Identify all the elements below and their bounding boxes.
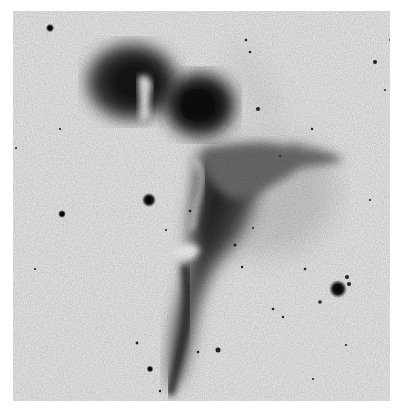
star (216, 348, 221, 353)
star (256, 107, 260, 111)
star (46, 24, 54, 32)
star (279, 155, 281, 157)
star (197, 351, 200, 354)
star (312, 378, 314, 380)
nebula-photograph: Nebula negative photograph (13, 11, 390, 401)
star (234, 244, 237, 247)
star (159, 390, 161, 392)
star (345, 344, 347, 346)
star (282, 316, 284, 318)
star (252, 227, 254, 229)
star (249, 51, 252, 54)
star (136, 342, 139, 345)
star (373, 60, 377, 64)
star (147, 366, 154, 373)
star (329, 280, 347, 298)
film-grain (13, 11, 390, 401)
star (241, 266, 243, 268)
star (15, 147, 17, 149)
star (58, 210, 66, 218)
star (34, 268, 36, 270)
star (272, 308, 275, 311)
star (245, 39, 248, 42)
star (304, 268, 307, 271)
star (318, 300, 322, 304)
star (142, 193, 156, 207)
star (189, 210, 192, 213)
star (165, 229, 167, 231)
star (369, 199, 371, 201)
nebula-svg (13, 11, 390, 401)
star (345, 275, 349, 279)
star (347, 282, 351, 286)
star (311, 128, 313, 130)
star (59, 128, 61, 130)
star (384, 89, 386, 91)
